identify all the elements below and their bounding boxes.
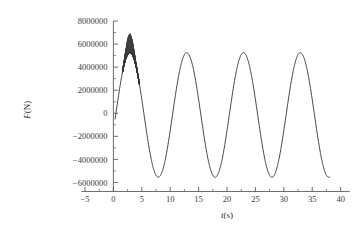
x-tick-label: −5 <box>80 194 89 204</box>
y-tick-label: 6000000 <box>78 39 108 49</box>
x-tick-label: 35 <box>308 194 317 204</box>
force-vs-time-chart: −6000000−4000000−20000000200000040000006… <box>0 0 364 244</box>
y-tick-label: −6000000 <box>73 178 108 188</box>
x-tick-label: 40 <box>336 194 345 204</box>
y-tick-label: −4000000 <box>73 155 108 165</box>
x-axis-title-text: t(s) <box>221 210 233 220</box>
x-tick-label: 15 <box>194 194 203 204</box>
x-tick-label: 25 <box>251 194 260 204</box>
x-axis-tick-labels: −50510152025303540 <box>80 194 344 204</box>
x-axis-title: t(s) <box>221 210 233 220</box>
force-series-line <box>115 53 330 178</box>
y-tick-label: 4000000 <box>78 62 108 72</box>
x-tick-label: 30 <box>280 194 289 204</box>
y-axis-title: F(N) <box>22 101 32 120</box>
x-tick-label: 20 <box>223 194 232 204</box>
x-tick-label: 10 <box>166 194 175 204</box>
y-axis-title-text: F(N) <box>22 101 32 120</box>
x-axis-ticks <box>85 187 341 192</box>
y-tick-label: 2000000 <box>78 85 108 95</box>
figure-container: −6000000−4000000−20000000200000040000006… <box>0 0 364 244</box>
y-axis-tick-labels: −6000000−4000000−20000000200000040000006… <box>73 16 108 187</box>
x-tick-label: 0 <box>111 194 115 204</box>
y-tick-label: 8000000 <box>78 16 108 26</box>
x-tick-label: 5 <box>140 194 144 204</box>
noise-burst-band <box>122 33 139 85</box>
y-tick-label: 0 <box>103 108 107 118</box>
y-tick-label: −2000000 <box>73 131 108 141</box>
axis-lines <box>82 21 350 191</box>
